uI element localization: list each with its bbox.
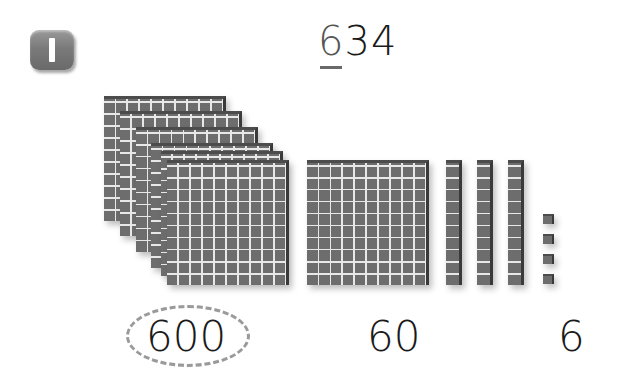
ten-rod bbox=[477, 160, 493, 285]
hundred-flat bbox=[167, 160, 289, 285]
problem-number-badge bbox=[30, 30, 74, 70]
ten-rod bbox=[446, 160, 462, 285]
label-tens: 60 bbox=[367, 312, 420, 362]
number-one-glyph bbox=[49, 38, 55, 62]
remaining-digits: 34 bbox=[344, 18, 397, 64]
label-hundreds: 600 bbox=[146, 312, 226, 362]
one-cube bbox=[543, 254, 554, 264]
tens-group-block bbox=[307, 160, 429, 285]
one-cube bbox=[543, 234, 554, 244]
highlighted-hundreds-digit: 6 bbox=[318, 17, 344, 65]
target-number: 634 bbox=[318, 17, 397, 65]
ten-rod bbox=[508, 160, 524, 285]
label-ones: 6 bbox=[558, 312, 585, 362]
one-cube bbox=[543, 214, 554, 224]
one-cube bbox=[543, 274, 554, 284]
